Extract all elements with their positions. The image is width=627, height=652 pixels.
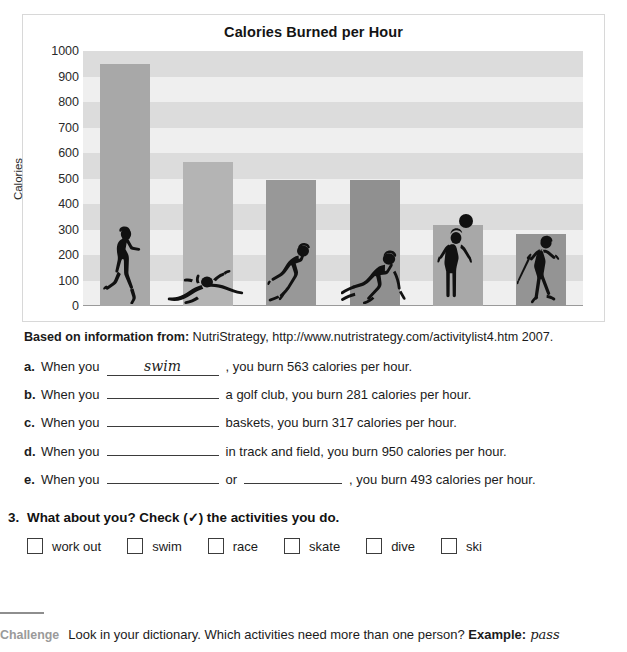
exercise-item: d.When youin track and field, you burn 9…	[24, 444, 614, 473]
activity-option[interactable]: skate	[284, 538, 340, 554]
chart-title: Calories Burned per Hour	[23, 24, 604, 40]
chart-plot-wrapper: Calories 1000900800700600500400300200100…	[83, 51, 583, 306]
chart-panel: Calories Burned per Hour Calories 100090…	[22, 14, 605, 322]
y-axis-tick: 400	[58, 197, 79, 211]
plot-gridband	[83, 77, 583, 103]
basketball-player-icon	[436, 214, 480, 304]
plot-gridband	[83, 255, 583, 281]
plot-gridband	[83, 102, 583, 128]
activity-option[interactable]: work out	[27, 538, 101, 554]
swimmer-icon	[167, 270, 249, 304]
plot-gridband	[83, 281, 583, 307]
section-3-options: work outswimraceskatediveski	[8, 538, 618, 554]
answer-blank[interactable]	[107, 425, 219, 427]
challenge-text: Look in your dictionary. Which activitie…	[68, 627, 559, 642]
answer-blank[interactable]: swim	[107, 358, 219, 376]
plot-gridband	[83, 204, 583, 230]
golfer-icon	[517, 232, 565, 304]
challenge-row: Challenge Look in your dictionary. Which…	[0, 627, 560, 642]
answer-blank[interactable]	[107, 454, 219, 456]
challenge-text-before: Look in your dictionary. Which activitie…	[68, 627, 468, 642]
answer-blank[interactable]	[107, 482, 219, 484]
exercise-items: a.When youswim, you burn 563 calories pe…	[24, 358, 614, 501]
item-text: When you	[41, 415, 100, 430]
item-letter: e.	[24, 472, 41, 487]
checkbox[interactable]	[366, 538, 382, 554]
y-axis-tick: 0	[72, 299, 79, 313]
checkbox[interactable]	[441, 538, 457, 554]
chart-bar	[350, 180, 400, 306]
answer-blank[interactable]	[107, 397, 219, 399]
exercise-item: e.When youor, you burn 493 calories per …	[24, 472, 614, 501]
y-axis-tick: 700	[58, 121, 79, 135]
plot-gridband	[83, 51, 583, 77]
chart-bar	[100, 64, 150, 306]
chart-bar	[433, 225, 483, 306]
x-axis-baseline	[83, 305, 583, 306]
item-letter: a.	[24, 359, 41, 374]
exercise-item: b.When youa golf club, you burn 281 calo…	[24, 387, 614, 416]
item-letter: b.	[24, 387, 41, 402]
option-label: work out	[52, 539, 101, 554]
section-3-heading: What about you? Check (✓) the activities…	[27, 510, 339, 525]
plot-gridband	[83, 153, 583, 179]
section-3-number: 3.	[8, 510, 27, 525]
activity-option[interactable]: race	[208, 538, 258, 554]
checkbox[interactable]	[284, 538, 300, 554]
item-text: baskets, you burn 317 calories per hour.	[226, 415, 457, 430]
challenge-tag: Challenge	[0, 628, 59, 642]
checkbox[interactable]	[27, 538, 43, 554]
challenge-example-word: pass	[526, 627, 560, 642]
plot-gridband	[83, 128, 583, 154]
activity-option[interactable]: swim	[127, 538, 182, 554]
plot-gridband	[83, 179, 583, 205]
item-text: , you burn 493 calories per hour.	[349, 472, 535, 487]
skater-icon	[267, 242, 315, 304]
section-3-heading-row: 3. What about you? Check (✓) the activit…	[8, 510, 618, 525]
y-axis-tick: 600	[58, 146, 79, 160]
y-axis-label: Calories	[12, 157, 24, 199]
item-text: a golf club, you burn 281 calories per h…	[226, 387, 472, 402]
chart-bar	[183, 162, 233, 306]
skier-icon	[341, 248, 409, 304]
y-axis-tick: 200	[58, 248, 79, 262]
item-text: When you	[41, 472, 100, 487]
y-axis-tick: 800	[58, 95, 79, 109]
chart-bar	[266, 180, 316, 306]
plot-gridband	[83, 230, 583, 256]
checkbox[interactable]	[127, 538, 143, 554]
item-text: When you	[41, 444, 100, 459]
exercise-item: c.When youbaskets, you burn 317 calories…	[24, 415, 614, 444]
item-text: When you	[41, 387, 100, 402]
chart-bar	[516, 234, 566, 306]
option-label: dive	[391, 539, 415, 554]
section-3: 3. What about you? Check (✓) the activit…	[8, 510, 618, 554]
option-label: skate	[309, 539, 340, 554]
y-axis-tick: 500	[58, 172, 79, 186]
y-axis-tick: 900	[58, 70, 79, 84]
answer-blank[interactable]	[244, 482, 342, 484]
plot-area	[83, 51, 583, 306]
source-text: NutriStrategy, http://www.nutristrategy.…	[189, 330, 553, 344]
y-axis-tick: 1000	[51, 44, 79, 58]
activity-option[interactable]: ski	[441, 538, 482, 554]
chart-source-note: Based on information from: NutriStrategy…	[24, 330, 553, 344]
option-label: swim	[152, 539, 182, 554]
option-label: race	[233, 539, 258, 554]
runner-icon	[103, 226, 147, 304]
item-text: or	[226, 472, 238, 487]
item-letter: c.	[24, 415, 41, 430]
challenge-example-label: Example:	[468, 627, 526, 642]
item-text: in track and field, you burn 950 calorie…	[226, 444, 507, 459]
exercise-item: a.When youswim, you burn 563 calories pe…	[24, 358, 614, 387]
challenge-divider	[0, 612, 44, 614]
activity-option[interactable]: dive	[366, 538, 415, 554]
checkbox[interactable]	[208, 538, 224, 554]
item-text: , you burn 563 calories per hour.	[226, 359, 412, 374]
y-axis: 10009008007006005004003002001000	[27, 51, 79, 306]
item-letter: d.	[24, 444, 41, 459]
y-axis-tick: 100	[58, 274, 79, 288]
source-lead: Based on information from:	[24, 330, 189, 344]
option-label: ski	[466, 539, 482, 554]
item-text: When you	[41, 359, 100, 374]
